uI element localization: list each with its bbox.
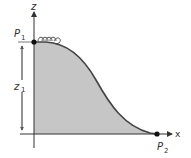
- height-label: z: [13, 81, 20, 92]
- diagram-canvas: z x P 1 P 2 z 1: [0, 0, 191, 158]
- z-axis-label: z: [30, 1, 37, 12]
- p1-label: P: [14, 28, 21, 39]
- shaded-region: [34, 42, 157, 134]
- point-p2: [154, 131, 159, 136]
- p2-subscript: 2: [164, 147, 168, 155]
- x-axis-label: x: [175, 129, 181, 139]
- p1-subscript: 1: [21, 34, 25, 42]
- height-subscript: 1: [21, 86, 25, 94]
- point-p1: [31, 39, 36, 44]
- p2-label: P: [157, 141, 164, 152]
